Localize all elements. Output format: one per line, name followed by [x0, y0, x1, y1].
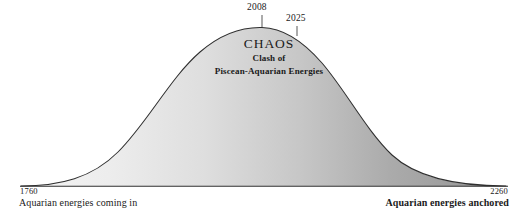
peak-label-2025: 2025: [286, 14, 306, 24]
axis-end-year: 2260: [490, 187, 508, 196]
center-annotation-block: CHAOS Clash of Piscean-Aquarian Energies: [0, 36, 528, 77]
axis-start-caption: Aquarian energies coming in: [19, 198, 137, 209]
axis-start-year: 1760: [20, 187, 38, 196]
bell-curve-figure: 2008 2025 CHAOS Clash of Piscean-Aquaria…: [0, 0, 528, 222]
chaos-title: CHAOS: [10, 36, 528, 52]
chaos-subtitle-line-2: Piscean-Aquarian Energies: [10, 65, 528, 77]
chaos-subtitle-line-1: Clash of: [10, 52, 528, 65]
bell-curve-graphic: [0, 0, 528, 222]
peak-label-2008: 2008: [247, 3, 267, 13]
axis-end-caption: Aquarian energies anchored: [385, 198, 509, 209]
